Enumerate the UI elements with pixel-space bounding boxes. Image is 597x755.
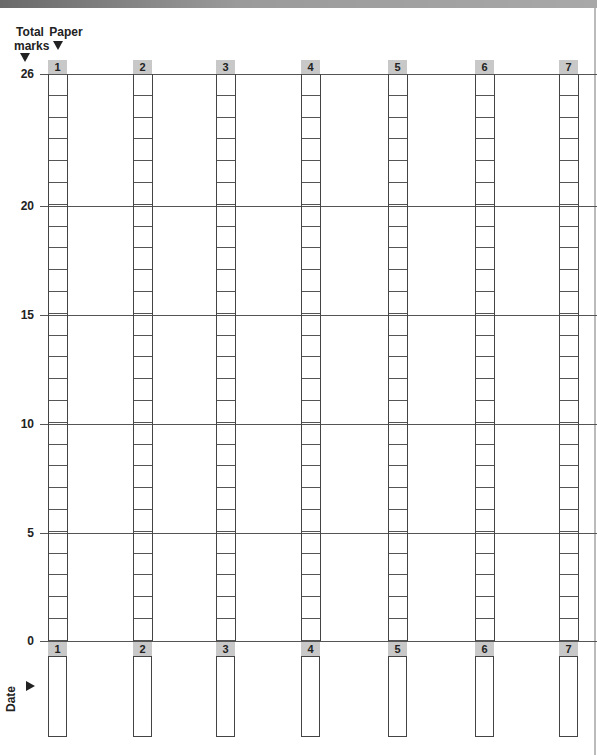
mark-cell[interactable]: [476, 248, 494, 270]
mark-cell[interactable]: [302, 314, 320, 336]
mark-cell[interactable]: [217, 445, 235, 467]
mark-cell[interactable]: [302, 488, 320, 510]
mark-cell[interactable]: [389, 139, 407, 161]
date-box-2[interactable]: [133, 656, 152, 737]
mark-cell[interactable]: [134, 183, 152, 205]
mark-cell[interactable]: [476, 227, 494, 249]
mark-cell[interactable]: [389, 597, 407, 619]
mark-cell[interactable]: [302, 423, 320, 445]
mark-cell[interactable]: [217, 488, 235, 510]
mark-cell[interactable]: [476, 336, 494, 358]
mark-cell[interactable]: [389, 248, 407, 270]
mark-cell[interactable]: [302, 466, 320, 488]
mark-cell[interactable]: [49, 314, 67, 336]
mark-cell[interactable]: [134, 139, 152, 161]
mark-cell[interactable]: [302, 227, 320, 249]
mark-cell[interactable]: [389, 554, 407, 576]
mark-cell[interactable]: [134, 292, 152, 314]
mark-cell[interactable]: [560, 314, 578, 336]
mark-cell[interactable]: [49, 532, 67, 554]
mark-cell[interactable]: [49, 96, 67, 118]
mark-cell[interactable]: [49, 74, 67, 96]
mark-cell[interactable]: [476, 96, 494, 118]
mark-cell[interactable]: [476, 466, 494, 488]
mark-cell[interactable]: [476, 445, 494, 467]
mark-cell[interactable]: [49, 554, 67, 576]
mark-cell[interactable]: [389, 357, 407, 379]
mark-cell[interactable]: [134, 314, 152, 336]
mark-cell[interactable]: [476, 379, 494, 401]
mark-cell[interactable]: [302, 575, 320, 597]
date-box-5[interactable]: [388, 656, 407, 737]
mark-cell[interactable]: [134, 161, 152, 183]
mark-cell[interactable]: [49, 401, 67, 423]
mark-cell[interactable]: [302, 619, 320, 641]
mark-cell[interactable]: [134, 619, 152, 641]
mark-cell[interactable]: [134, 96, 152, 118]
mark-cell[interactable]: [134, 466, 152, 488]
mark-cell[interactable]: [49, 510, 67, 532]
mark-cell[interactable]: [134, 445, 152, 467]
mark-cell[interactable]: [560, 554, 578, 576]
mark-cell[interactable]: [560, 118, 578, 140]
date-box-4[interactable]: [301, 656, 320, 737]
mark-cell[interactable]: [560, 96, 578, 118]
mark-cell[interactable]: [217, 292, 235, 314]
mark-cell[interactable]: [217, 314, 235, 336]
mark-cell[interactable]: [49, 423, 67, 445]
date-box-7[interactable]: [559, 656, 578, 737]
mark-cell[interactable]: [389, 401, 407, 423]
mark-cell[interactable]: [476, 554, 494, 576]
mark-cell[interactable]: [560, 227, 578, 249]
mark-cell[interactable]: [389, 314, 407, 336]
mark-cell[interactable]: [217, 357, 235, 379]
mark-cell[interactable]: [560, 292, 578, 314]
mark-cell[interactable]: [49, 183, 67, 205]
mark-cell[interactable]: [49, 488, 67, 510]
mark-cell[interactable]: [49, 205, 67, 227]
mark-cell[interactable]: [389, 379, 407, 401]
mark-cell[interactable]: [49, 466, 67, 488]
mark-cell[interactable]: [134, 401, 152, 423]
mark-cell[interactable]: [302, 357, 320, 379]
mark-cell[interactable]: [302, 183, 320, 205]
mark-cell[interactable]: [560, 532, 578, 554]
mark-cell[interactable]: [476, 510, 494, 532]
mark-cell[interactable]: [134, 554, 152, 576]
mark-cell[interactable]: [476, 357, 494, 379]
mark-cell[interactable]: [560, 248, 578, 270]
mark-cell[interactable]: [389, 205, 407, 227]
mark-cell[interactable]: [302, 292, 320, 314]
mark-cell[interactable]: [476, 532, 494, 554]
mark-cell[interactable]: [217, 74, 235, 96]
mark-cell[interactable]: [217, 532, 235, 554]
mark-cell[interactable]: [302, 401, 320, 423]
mark-cell[interactable]: [49, 445, 67, 467]
mark-cell[interactable]: [302, 554, 320, 576]
mark-cell[interactable]: [560, 619, 578, 641]
mark-cell[interactable]: [217, 575, 235, 597]
mark-cell[interactable]: [49, 248, 67, 270]
mark-cell[interactable]: [560, 205, 578, 227]
mark-cell[interactable]: [217, 336, 235, 358]
mark-cell[interactable]: [134, 488, 152, 510]
mark-cell[interactable]: [217, 227, 235, 249]
mark-cell[interactable]: [217, 183, 235, 205]
mark-cell[interactable]: [560, 445, 578, 467]
mark-cell[interactable]: [302, 336, 320, 358]
mark-cell[interactable]: [134, 575, 152, 597]
mark-cell[interactable]: [560, 575, 578, 597]
mark-cell[interactable]: [476, 575, 494, 597]
mark-cell[interactable]: [476, 74, 494, 96]
mark-cell[interactable]: [49, 597, 67, 619]
mark-cell[interactable]: [476, 161, 494, 183]
date-box-3[interactable]: [216, 656, 235, 737]
mark-cell[interactable]: [389, 488, 407, 510]
mark-cell[interactable]: [476, 314, 494, 336]
date-box-6[interactable]: [475, 656, 494, 737]
mark-cell[interactable]: [389, 227, 407, 249]
mark-cell[interactable]: [49, 227, 67, 249]
mark-cell[interactable]: [560, 401, 578, 423]
mark-cell[interactable]: [134, 118, 152, 140]
mark-cell[interactable]: [217, 423, 235, 445]
